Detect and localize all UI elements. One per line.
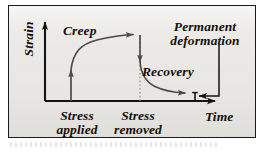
figure-root: Strain Creep Permanent deformation Recov…	[0, 0, 266, 154]
scan-artifact-strip	[10, 142, 218, 147]
stress-removed-label-line2: removed	[97, 123, 179, 137]
y-axis-label: Strain	[22, 7, 36, 71]
x-axis-label: Time	[205, 110, 233, 124]
permanent-deformation-leader	[199, 44, 219, 96]
stress-removed-label: Stress removed	[97, 109, 179, 137]
permanent-deformation-label: Permanent deformation	[159, 20, 251, 48]
stress-removed-label-line1: Stress	[97, 109, 179, 123]
recovery-label: Recovery	[142, 65, 194, 79]
permanent-deformation-label-line1: Permanent	[159, 20, 251, 34]
creep-curve	[71, 35, 133, 71]
permanent-deformation-label-line2: deformation	[159, 34, 251, 48]
creep-label: Creep	[63, 24, 97, 38]
permanent-deformation-bracket	[192, 93, 198, 102]
diagram-frame: Strain Creep Permanent deformation Recov…	[8, 5, 256, 138]
